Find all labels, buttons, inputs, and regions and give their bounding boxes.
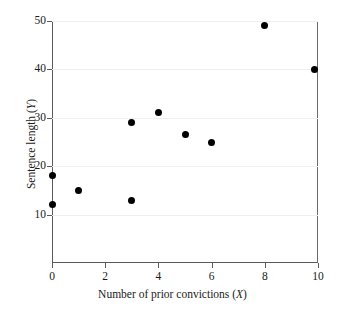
x-tick-mark-4 <box>158 263 159 268</box>
x-axis-title: Number of prior convictions (X) <box>0 288 345 300</box>
x-tick-label-6: 6 <box>192 270 232 282</box>
x-axis-title-text: Number of prior convictions ( <box>98 288 236 300</box>
data-point <box>49 201 56 208</box>
x-tick-mark-0 <box>52 263 53 268</box>
y-tick-mark-50 <box>47 21 52 22</box>
data-point <box>128 197 135 204</box>
y-tick-mark-20 <box>47 166 52 167</box>
gridline-y-40 <box>52 69 318 70</box>
gridline-y-20 <box>52 166 318 167</box>
y-tick-mark-10 <box>47 215 52 216</box>
y-axis-title: Sentence length (Y) <box>25 29 37 259</box>
x-tick-label-0: 0 <box>32 270 72 282</box>
x-axis-title-close: ) <box>243 288 247 300</box>
scatter-plot-figure: 1020304050 0246810 Number of prior convi… <box>0 0 345 314</box>
y-axis-title-close: ) <box>25 99 37 103</box>
x-tick-mark-10 <box>318 263 319 268</box>
y-axis-variable: Y <box>25 103 37 109</box>
x-tick-label-4: 4 <box>138 270 178 282</box>
y-tick-mark-40 <box>47 69 52 70</box>
gridline-y-10 <box>52 215 318 216</box>
data-point <box>311 66 318 73</box>
data-point <box>75 187 82 194</box>
data-point <box>208 139 215 146</box>
data-point <box>182 131 189 138</box>
plot-area <box>52 21 318 263</box>
x-tick-mark-2 <box>105 263 106 268</box>
x-tick-mark-6 <box>212 263 213 268</box>
y-axis-title-text: Sentence length ( <box>25 109 37 189</box>
x-tick-label-2: 2 <box>85 270 125 282</box>
x-tick-mark-8 <box>265 263 266 268</box>
x-tick-label-8: 8 <box>245 270 285 282</box>
x-tick-label-10: 10 <box>298 270 338 282</box>
gridline-y-50 <box>52 21 318 22</box>
y-tick-label-50: 50 <box>6 15 46 27</box>
data-point <box>49 172 56 179</box>
y-tick-mark-30 <box>47 118 52 119</box>
gridline-y-30 <box>52 118 318 119</box>
